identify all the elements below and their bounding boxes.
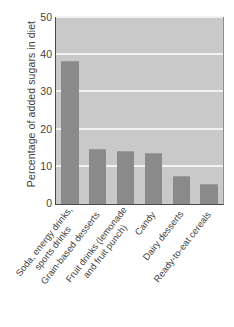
gridline <box>56 53 223 55</box>
bar <box>200 184 217 204</box>
plot-inner <box>56 18 223 204</box>
bar <box>89 149 106 204</box>
y-tick-label: 0 <box>30 197 52 209</box>
x-tick-label: Candy <box>133 210 158 238</box>
y-tick-label: 40 <box>30 48 52 60</box>
y-tick-label: 50 <box>30 11 52 23</box>
bar-chart-figure: Percentage of added sugars in diet 01020… <box>0 0 234 327</box>
bar <box>145 153 162 204</box>
y-tick-label: 20 <box>30 123 52 135</box>
y-tick-label: 10 <box>30 160 52 172</box>
y-tick-label: 30 <box>30 85 52 97</box>
bar <box>117 151 134 204</box>
bar <box>173 176 190 204</box>
x-tick-label-line: Candy <box>133 210 158 238</box>
bar <box>61 61 78 204</box>
plot-area <box>55 17 224 205</box>
gridline <box>56 128 223 130</box>
gridline <box>56 16 223 18</box>
gridline <box>56 165 223 167</box>
gridline <box>56 90 223 92</box>
